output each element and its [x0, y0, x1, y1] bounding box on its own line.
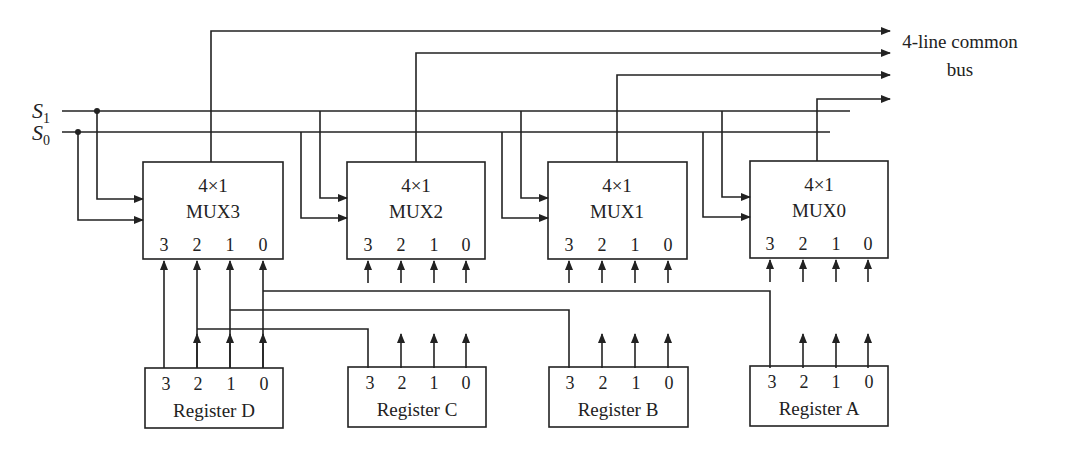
- mux3-pin: 2: [193, 235, 202, 255]
- mux0-pin: 3: [766, 234, 775, 254]
- mux1-name: MUX1: [590, 201, 644, 222]
- reg-a-bit: 1: [832, 372, 841, 392]
- mux1-pin: 3: [565, 235, 574, 255]
- s0-junction: [75, 129, 81, 135]
- reg-d-bit: 2: [194, 374, 203, 394]
- reg-c-bit: 0: [462, 373, 471, 393]
- mux0-name: MUX0: [792, 200, 846, 221]
- bus-label-line1: 4-line common: [902, 31, 1018, 52]
- reg-b-bit: 2: [599, 373, 608, 393]
- mux1-pin: 1: [631, 235, 640, 255]
- reg-a-bit: 0: [865, 372, 874, 392]
- diagram-svg: S1 S0 4-line common bus 4×1 MUX3 4×1 MUX…: [0, 0, 1070, 449]
- reg-a-bit: 2: [800, 372, 809, 392]
- mux3-pin: 3: [160, 235, 169, 255]
- mux0-pin: 1: [832, 234, 841, 254]
- mux0-pin: 0: [864, 234, 873, 254]
- reg-d-bit: 3: [162, 374, 171, 394]
- mux2-name: MUX2: [389, 201, 443, 222]
- bus-label-line2: bus: [947, 59, 973, 80]
- mux0-pin: 2: [799, 234, 808, 254]
- mux2-type: 4×1: [401, 175, 431, 196]
- register-d-name: Register D: [173, 400, 255, 421]
- mux3-pin: 1: [226, 235, 235, 255]
- reg-c-bit: 1: [430, 373, 439, 393]
- reg-d-bit: 0: [260, 374, 269, 394]
- mux2-pin: 0: [462, 235, 471, 255]
- mux3-type: 4×1: [198, 175, 228, 196]
- reg-d-bit: 1: [227, 374, 236, 394]
- reg-b-bit: 3: [566, 373, 575, 393]
- reg-b-bit: 1: [632, 373, 641, 393]
- mux1-pin: 0: [664, 235, 673, 255]
- bus-diagram: S1 S0 4-line common bus 4×1 MUX3 4×1 MUX…: [0, 0, 1070, 449]
- reg-c-bit: 3: [366, 373, 375, 393]
- reg-b-bit: 0: [665, 373, 674, 393]
- mux1-type: 4×1: [602, 175, 632, 196]
- register-c-name: Register C: [377, 399, 458, 420]
- reg-a-bit: 3: [768, 372, 777, 392]
- mux2-pin: 3: [364, 235, 373, 255]
- mux3-name: MUX3: [186, 201, 240, 222]
- mux2-pin: 1: [430, 235, 439, 255]
- mux1-pin: 2: [598, 235, 607, 255]
- mux3-pin: 0: [259, 235, 268, 255]
- s1-junction: [94, 108, 100, 114]
- register-a-name: Register A: [779, 398, 860, 419]
- mux2-pin: 2: [397, 235, 406, 255]
- reg-c-bit: 2: [398, 373, 407, 393]
- register-b-name: Register B: [578, 399, 659, 420]
- mux0-type: 4×1: [804, 174, 834, 195]
